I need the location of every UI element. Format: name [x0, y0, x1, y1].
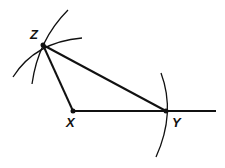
segment-zx [43, 45, 73, 111]
arc-from-x [13, 38, 82, 77]
point-z [41, 43, 46, 48]
label-y: Y [172, 115, 182, 130]
arc-from-y [32, 10, 68, 84]
label-x: X [65, 115, 76, 130]
construction-diagram: Z X Y [0, 0, 225, 168]
segment-zy [43, 45, 166, 111]
arc-through-y [156, 73, 167, 157]
label-z: Z [29, 27, 39, 42]
point-x [71, 109, 76, 114]
point-y [164, 109, 169, 114]
